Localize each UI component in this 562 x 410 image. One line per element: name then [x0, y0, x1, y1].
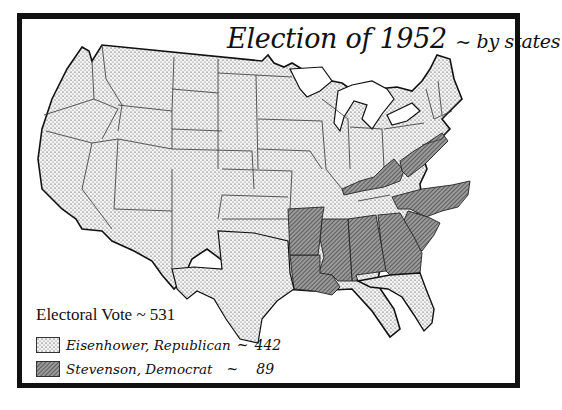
map-frame: Election of 1952 ~ by states Electoral V… [17, 13, 520, 388]
map-title: Election of 1952 ~ by states [227, 23, 560, 54]
legend-count-republican: 442 [255, 337, 282, 353]
page-header [0, 0, 562, 10]
stipple-swatch-icon [36, 337, 60, 353]
legend-count-democrat: 89 [256, 361, 274, 377]
legend-separator-democrat: ~ [227, 361, 239, 377]
title-main: Election of 1952 [227, 23, 447, 54]
hatch-swatch-icon [36, 361, 60, 377]
legend-item-republican: Eisenhower, Republican ~ 442 [36, 333, 281, 357]
legend-separator-republican: ~ [237, 337, 249, 353]
legend-label-republican: Eisenhower, Republican [66, 337, 231, 353]
legend-label-democrat: Stevenson, Democrat [66, 361, 213, 377]
legend-total-electoral-vote: Electoral Vote ~ 531 [36, 305, 281, 325]
legend-item-democrat: Stevenson, Democrat ~ 89 [36, 357, 281, 381]
state-arkansas [288, 207, 324, 255]
state-mississippi [318, 219, 352, 281]
legend: Electoral Vote ~ 531 Eisenhower, Republi… [36, 305, 281, 381]
title-subtitle: ~ by states [455, 30, 560, 52]
